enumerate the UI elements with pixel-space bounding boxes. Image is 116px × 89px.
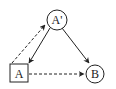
node-b-label: B bbox=[91, 67, 99, 81]
causal-diagram: A' A B bbox=[0, 0, 116, 89]
edge-aprime-to-a bbox=[29, 28, 50, 63]
node-a-label: A bbox=[15, 67, 24, 81]
edge-aprime-to-b bbox=[62, 28, 89, 63]
node-a-prime: A' bbox=[47, 10, 67, 30]
node-a-prime-label: A' bbox=[52, 13, 63, 27]
node-a: A bbox=[10, 64, 28, 82]
node-b: B bbox=[86, 65, 104, 83]
